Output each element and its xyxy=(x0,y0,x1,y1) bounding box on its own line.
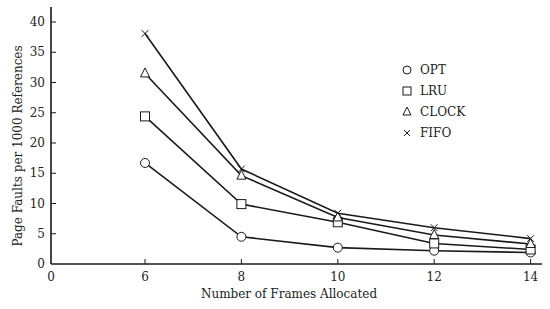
y-ticks: 0510152025303540 xyxy=(30,15,56,271)
data-point-lru xyxy=(430,239,439,248)
y-tick-label: 10 xyxy=(30,197,45,211)
y-tick-label: 20 xyxy=(30,136,45,150)
x-ticks: 068101214 xyxy=(47,259,538,284)
axes xyxy=(51,7,542,264)
data-point-lru xyxy=(237,200,246,209)
data-point-clock xyxy=(141,68,150,77)
y-tick-label: 15 xyxy=(30,166,45,180)
legend-item-opt: OPT xyxy=(403,63,446,77)
legend-label-lru: LRU xyxy=(420,84,447,98)
y-axis-title: Page Faults per 1000 References xyxy=(11,45,25,246)
page-faults-chart: 0510152025303540 068101214 Page Faults p… xyxy=(0,0,550,309)
x-tick-label: 14 xyxy=(523,270,539,284)
legend-marker-opt xyxy=(403,66,411,74)
data-point-opt xyxy=(333,243,342,252)
x-tick-label: 8 xyxy=(238,270,246,284)
legend: OPTLRUCLOCKFIFO xyxy=(403,63,466,140)
legend-marker-clock xyxy=(403,107,411,115)
x-tick-label: 6 xyxy=(141,270,149,284)
series-fifo xyxy=(142,30,534,242)
series-clock xyxy=(141,68,536,248)
y-tick-label: 35 xyxy=(30,45,45,59)
y-tick-label: 5 xyxy=(37,227,45,241)
legend-marker-lru xyxy=(403,87,411,95)
y-tick-label: 40 xyxy=(30,15,45,29)
legend-label-clock: CLOCK xyxy=(420,105,466,119)
y-tick-label: 0 xyxy=(37,257,45,271)
legend-item-clock: CLOCK xyxy=(403,105,466,119)
legend-marker-fifo xyxy=(404,130,410,136)
series-opt xyxy=(141,158,536,257)
data-point-fifo xyxy=(142,30,149,37)
x-tick-label: 10 xyxy=(330,270,345,284)
data-point-opt xyxy=(237,232,246,241)
y-tick-label: 30 xyxy=(30,76,45,90)
legend-label-fifo: FIFO xyxy=(420,126,451,140)
x-tick-label: 12 xyxy=(427,270,442,284)
x-tick-label: 0 xyxy=(47,270,55,284)
x-axis-title: Number of Frames Allocated xyxy=(201,287,377,301)
series-group xyxy=(141,30,536,257)
legend-item-fifo: FIFO xyxy=(404,126,451,140)
series-line-lru xyxy=(145,116,531,249)
data-point-opt xyxy=(141,158,150,167)
y-tick-label: 25 xyxy=(30,106,45,120)
data-point-lru xyxy=(141,112,150,121)
legend-label-opt: OPT xyxy=(420,63,446,77)
legend-item-lru: LRU xyxy=(403,84,447,98)
